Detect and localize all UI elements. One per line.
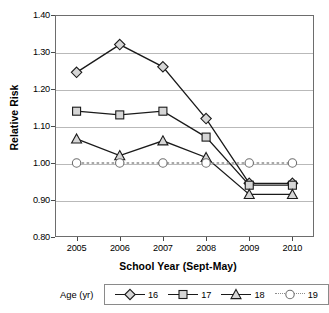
gridline: [56, 127, 313, 128]
legend-marker-square-icon: [168, 289, 198, 300]
legend-symbol: [283, 288, 297, 301]
legend-item-18[interactable]: 18: [221, 289, 264, 300]
x-tick-mark: [206, 237, 207, 241]
x-tick-label: 2009: [225, 243, 273, 253]
x-tick-label: 2010: [268, 243, 316, 253]
legend-label: 18: [254, 290, 264, 300]
data-point-marker: [125, 289, 135, 299]
x-tick-mark: [163, 237, 164, 241]
legend-title: Age (yr): [60, 289, 93, 300]
data-point-marker: [179, 291, 187, 299]
x-tick-label: 2008: [182, 243, 230, 253]
x-tick-label: 2007: [139, 243, 187, 253]
x-tick-label: 2005: [53, 243, 101, 253]
legend-label: 19: [308, 290, 318, 300]
y-tick-label: 0.90: [4, 196, 50, 205]
y-tick-label: 1.00: [4, 159, 50, 168]
y-tick-label: 0.80: [4, 233, 50, 242]
legend-marker-triangle-icon: [221, 289, 251, 300]
gridline: [56, 201, 313, 202]
x-tick-mark: [77, 237, 78, 241]
legend-marker-circle-icon: [275, 289, 305, 300]
x-tick-mark: [120, 237, 121, 241]
y-tick-label: 1.40: [4, 11, 50, 20]
x-tick-mark: [292, 237, 293, 241]
legend-item-16[interactable]: 16: [115, 289, 158, 300]
data-point-marker: [286, 290, 294, 298]
gridline: [56, 53, 313, 54]
legend-symbol: [123, 288, 137, 301]
legend-marker-diamond-icon: [115, 289, 145, 300]
legend-label: 16: [148, 290, 158, 300]
y-tick-label: 1.10: [4, 122, 50, 131]
x-tick-mark: [249, 237, 250, 241]
gridline: [56, 90, 313, 91]
legend-item-19[interactable]: 19: [275, 289, 318, 300]
data-point-marker: [231, 290, 241, 299]
legend-symbol: [229, 288, 243, 301]
legend-label: 17: [201, 290, 211, 300]
chart-legend: 16171819: [104, 284, 329, 305]
y-tick-mark: [51, 237, 55, 238]
y-tick-label: 1.20: [4, 85, 50, 94]
x-tick-label: 2006: [96, 243, 144, 253]
gridline: [56, 164, 313, 165]
plot-area: [55, 15, 314, 237]
legend-item-17[interactable]: 17: [168, 289, 211, 300]
x-axis-title: School Year (Sept-May): [33, 261, 323, 272]
y-tick-label: 1.30: [4, 48, 50, 57]
legend-symbol: [176, 288, 190, 301]
